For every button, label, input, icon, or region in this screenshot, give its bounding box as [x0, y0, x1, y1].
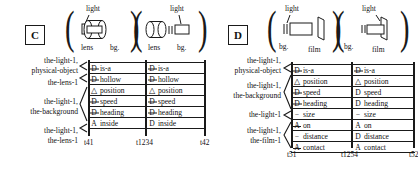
cell-text: contact: [364, 143, 386, 153]
tick-label-mid: t1234: [136, 138, 153, 147]
cell-left: Ainside: [88, 118, 146, 130]
sketch-c-2: ( ) light lens bg.: [136, 4, 204, 54]
row-label-line: the-film-1: [205, 136, 281, 146]
panel-d: D ( ) light bg. film: [205, 0, 415, 178]
lens-light-apart-icon: [136, 4, 204, 54]
cell-grid-d: Dis-a Dis-a △position △position Dspeed D…: [291, 64, 415, 152]
cell-text: speed: [158, 97, 175, 107]
cell-text: is-a: [158, 64, 169, 74]
symbol-d-slash: D: [90, 75, 98, 85]
sketch-row-d: ( ) light bg. film ( ): [270, 4, 406, 54]
cell-text: heading: [158, 108, 182, 118]
table-row: △position △position: [88, 84, 206, 96]
row-label-c-3: the-light-1, the-lens-1: [0, 126, 78, 145]
cell-text: heading: [364, 99, 388, 109]
row-label-line: the-light-1,: [0, 126, 78, 136]
symbol-d-slash: D: [148, 97, 156, 107]
symbol-d-slash: D: [90, 64, 98, 74]
cell-right: Acontact: [352, 142, 415, 154]
tick-label-end: t52: [409, 150, 418, 159]
cell-right: Dinside: [146, 118, 206, 130]
cell-text: contact: [303, 143, 325, 153]
cell-text: size: [303, 110, 315, 120]
sketch-label-film: film: [372, 46, 385, 54]
symbol-d-slash: D: [90, 108, 98, 118]
row-label-line: the-light-1,: [205, 56, 281, 66]
symbol-d-slash: D: [293, 99, 301, 109]
symbol-d: D: [354, 132, 362, 142]
symbol-a: A: [354, 121, 362, 131]
table-row: △position △position: [291, 75, 415, 87]
panel-c: C ( ) light: [0, 0, 208, 178]
sketch-label-bg: bg.: [177, 44, 186, 52]
symbol-d: D: [354, 99, 362, 109]
row-label-line: the-lens-1: [0, 78, 78, 88]
symbol-dash-icon: −: [293, 132, 301, 142]
table-row: Dspeed Dspeed: [291, 86, 415, 98]
sketch-c-1: ( ) light lens bg.: [68, 4, 136, 54]
table-row: Dspeed Dspeed: [88, 95, 206, 107]
sketch-label-lens: lens: [81, 44, 93, 52]
cell-text: is-a: [100, 64, 111, 74]
symbol-d-slash: D: [148, 75, 156, 85]
row-label-line: the-background: [0, 107, 78, 117]
sketch-d-1: ( ) light bg. film: [270, 4, 338, 54]
cell-grid-c: Dis-a Dis-a Dhollow Dhollow △position △p…: [88, 62, 206, 128]
row-label-d-1: the-light-1, the-background: [205, 81, 281, 100]
tick-label-start: t41: [84, 138, 93, 147]
cell-text: is-a: [303, 66, 314, 76]
panel-letter-d: D: [228, 25, 248, 45]
lens-light-overlap-icon: [68, 4, 136, 54]
cell-text: inside: [100, 119, 118, 129]
symbol-d: D: [354, 88, 362, 98]
cell-text: hollow: [158, 75, 179, 85]
table-row: Dis-a Dis-a: [291, 64, 415, 76]
timeline-d: Dis-a Dis-a △position △position Dspeed D…: [291, 62, 415, 148]
cell-text: speed: [364, 88, 381, 98]
row-label-c-2: the-light-1, the-background: [0, 97, 78, 116]
cell-text: is-a: [364, 66, 375, 76]
tick-label-start: t51: [287, 150, 296, 159]
tick-label-mid: t1254: [341, 150, 358, 159]
cell-text: on: [303, 121, 311, 131]
symbol-d-slash: D: [148, 64, 156, 74]
row-label-line: physical-object: [205, 66, 281, 76]
symbol-triangle-icon: △: [293, 77, 301, 87]
table-row: −distance Ddistance: [291, 130, 415, 142]
table-row: Aon Aon: [291, 119, 415, 131]
table-row: Dheading Dheading: [88, 106, 206, 118]
cell-text: distance: [364, 132, 389, 142]
row-label-line: the-light-1,: [205, 126, 281, 136]
row-label-line: the-lens-1: [0, 136, 78, 146]
row-label-line: the-light-1: [205, 110, 281, 120]
timeline-c: Dis-a Dis-a Dhollow Dhollow △position △p…: [88, 60, 206, 136]
sketch-d-2: ( ) light bg. film: [338, 4, 406, 54]
cell-text: on: [364, 121, 372, 131]
symbol-triangle-icon: △: [148, 86, 156, 96]
symbol-a-slash: A: [293, 121, 301, 131]
sketch-row-c: ( ) light lens bg.: [68, 4, 204, 54]
table-row: Dheading Dheading: [291, 97, 415, 109]
row-label-c-1: the-lens-1: [0, 78, 78, 88]
sketch-label-bg: bg.: [344, 43, 353, 51]
cell-text: position: [158, 86, 182, 96]
panel-letter-c: C: [25, 25, 45, 45]
cell-text: distance: [303, 132, 328, 142]
cell-text: position: [303, 77, 327, 87]
row-label-d-0: the-light-1, physical-object: [205, 56, 281, 75]
symbol-d-slash: D: [354, 66, 362, 76]
row-label-line: physical-object: [0, 66, 78, 76]
symbol-d-slash: D: [90, 97, 98, 107]
cell-text: heading: [100, 108, 124, 118]
row-label-line: the-light-1,: [0, 56, 78, 66]
symbol-d-slash: D: [148, 108, 156, 118]
symbol-d: D: [148, 119, 156, 129]
table-row: Ainside Dinside: [88, 117, 206, 129]
row-label-d-3: the-light-1, the-film-1: [205, 126, 281, 145]
cell-text: position: [100, 86, 124, 96]
row-label-line: the-light-1,: [0, 97, 78, 107]
table-row: −size −size: [291, 108, 415, 120]
symbol-d-slash: D: [293, 66, 301, 76]
symbol-a: A: [90, 119, 98, 129]
